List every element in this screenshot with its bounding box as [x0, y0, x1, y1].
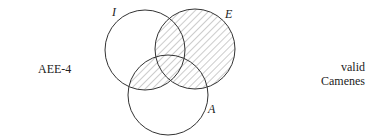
circle-label-a: A — [207, 102, 216, 116]
circle-label-e: E — [224, 7, 233, 21]
venn-diagram: I E A — [0, 0, 377, 140]
circle-label-i: I — [111, 5, 117, 19]
